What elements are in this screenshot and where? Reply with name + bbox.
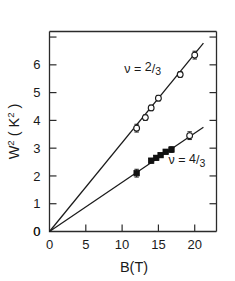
y-tick-label-5: 5	[33, 85, 40, 100]
x-tick-label-5: 5	[82, 237, 89, 252]
x-tick-label-20: 20	[187, 237, 201, 252]
series-annotation-0: ν = 2/3	[124, 60, 161, 77]
series-annotation-1: ν = 4/3	[169, 152, 206, 169]
x-tick-label-0: 0	[46, 237, 53, 252]
y-tick-label-2: 2	[33, 169, 40, 184]
data-point-open-circle	[187, 133, 193, 139]
data-point-filled-square	[163, 149, 168, 154]
y-tick-label-1: 1	[33, 196, 40, 211]
data-point-open-circle	[192, 52, 198, 58]
y-tick-label-6: 6	[33, 57, 40, 72]
series-label-text: ν = 2/3	[124, 60, 161, 77]
y-tick-label-4: 4	[33, 113, 40, 128]
data-point-filled-square	[134, 170, 139, 175]
data-point-open-circle	[156, 95, 162, 101]
data-point-filled-square	[169, 147, 174, 152]
y-tick-label-origin: 0	[33, 224, 40, 239]
data-point-open-circle	[134, 125, 140, 131]
y-tick-label-3: 3	[33, 141, 40, 156]
figure-panel: 0123456051015200ν = 2/3ν = 4/3B(T)W2 ( K…	[0, 0, 235, 281]
data-point-filled-square	[148, 158, 153, 163]
data-point-open-circle	[177, 72, 183, 78]
x-axis-title: B(T)	[120, 259, 148, 275]
data-point-open-circle	[148, 105, 154, 111]
fit-line-series-1	[50, 127, 204, 231]
y-axis-title: W2 ( K2 )	[5, 104, 22, 160]
scatter-plot: 0123456051015200ν = 2/3ν = 4/3B(T)W2 ( K…	[0, 0, 235, 281]
data-point-filled-square	[158, 152, 163, 157]
x-tick-label-15: 15	[151, 237, 165, 252]
x-tick-label-10: 10	[115, 237, 129, 252]
data-point-open-circle	[142, 115, 148, 121]
series-label-text: ν = 4/3	[169, 152, 206, 169]
